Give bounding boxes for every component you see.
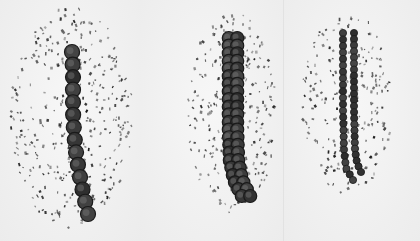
iron-filing xyxy=(104,128,106,130)
iron-filing xyxy=(19,86,20,88)
iron-filing xyxy=(256,110,260,114)
iron-filing xyxy=(52,133,54,135)
iron-filing xyxy=(114,104,116,107)
iron-filing xyxy=(321,33,325,37)
iron-filing xyxy=(198,178,200,180)
iron-filing xyxy=(332,58,334,60)
iron-filing xyxy=(255,156,258,159)
iron-filing xyxy=(200,105,203,109)
iron-filing xyxy=(232,22,234,25)
iron-filing xyxy=(314,104,317,108)
iron-filing xyxy=(205,53,207,55)
iron-filing xyxy=(256,65,260,69)
iron-filing xyxy=(207,113,210,116)
iron-filing xyxy=(363,128,365,130)
iron-filing xyxy=(358,184,360,186)
iron-filing xyxy=(15,142,18,145)
iron-filing xyxy=(94,127,96,130)
iron-filing xyxy=(208,139,210,141)
iron-filing xyxy=(83,143,84,146)
iron-filing xyxy=(307,131,311,135)
iron-filing xyxy=(38,190,41,193)
iron-filing xyxy=(210,185,211,188)
iron-filing xyxy=(311,118,314,120)
iron-filing xyxy=(383,146,385,149)
iron-filing xyxy=(265,108,267,111)
iron-filing xyxy=(116,61,118,63)
iron-filing xyxy=(100,200,103,203)
iron-filing xyxy=(330,165,333,168)
iron-filing xyxy=(47,172,49,174)
bead-highlight xyxy=(69,122,76,129)
iron-filing xyxy=(338,23,340,25)
iron-filing xyxy=(111,57,113,58)
iron-filing xyxy=(104,158,106,160)
iron-filing xyxy=(371,75,374,78)
iron-filing xyxy=(121,127,125,131)
iron-filing xyxy=(218,199,221,202)
iron-filing xyxy=(57,191,58,193)
iron-filing xyxy=(350,17,352,19)
iron-filing xyxy=(306,137,308,139)
iron-filing xyxy=(328,46,330,49)
iron-filing xyxy=(60,143,62,145)
iron-filing xyxy=(242,15,244,17)
iron-filing xyxy=(386,82,389,85)
iron-filing xyxy=(89,129,92,132)
iron-filing xyxy=(53,110,55,112)
iron-filing xyxy=(62,102,63,104)
iron-filing xyxy=(304,80,306,83)
iron-filing xyxy=(64,205,66,208)
iron-filing xyxy=(46,119,49,122)
iron-filing xyxy=(34,205,36,207)
iron-filing xyxy=(380,47,383,50)
iron-filing xyxy=(42,209,45,211)
iron-filing xyxy=(358,19,360,21)
iron-filing xyxy=(88,148,90,152)
iron-filing xyxy=(36,139,39,140)
bead-highlight xyxy=(71,147,78,154)
iron-filing xyxy=(89,58,92,61)
iron-filing xyxy=(80,222,83,224)
iron-filing xyxy=(71,23,73,26)
iron-filing xyxy=(388,132,391,136)
iron-filing xyxy=(108,97,109,99)
iron-filing xyxy=(258,172,260,175)
iron-filing xyxy=(307,65,310,68)
iron-filing xyxy=(46,105,47,106)
iron-filing xyxy=(320,91,323,94)
iron-filing xyxy=(256,35,259,38)
iron-filing xyxy=(326,39,328,41)
iron-filing xyxy=(245,96,246,97)
iron-filing xyxy=(346,80,349,83)
iron-filing xyxy=(55,143,57,145)
iron-filing xyxy=(24,136,26,138)
iron-filing xyxy=(370,118,373,121)
iron-filing xyxy=(61,57,63,60)
filings-and-chain-image xyxy=(284,0,420,241)
iron-filing xyxy=(112,93,114,95)
iron-filing xyxy=(113,118,115,121)
iron-filing xyxy=(348,139,350,142)
iron-filing xyxy=(246,49,248,51)
bead-highlight xyxy=(75,172,82,179)
bead-highlight xyxy=(67,60,74,67)
iron-filing xyxy=(309,85,312,88)
iron-filing xyxy=(119,126,121,128)
iron-filing xyxy=(24,58,27,60)
iron-filing xyxy=(83,61,86,64)
iron-filing xyxy=(267,86,269,89)
iron-filing xyxy=(67,226,70,229)
iron-filing xyxy=(65,174,67,176)
iron-filing xyxy=(256,153,259,156)
iron-filing xyxy=(32,53,36,57)
iron-filing xyxy=(246,64,247,66)
iron-filing xyxy=(34,134,37,137)
iron-filing xyxy=(374,110,376,112)
iron-filing xyxy=(213,102,215,105)
iron-filing xyxy=(55,212,56,214)
iron-filing xyxy=(189,140,192,143)
iron-filing xyxy=(199,173,202,176)
iron-filing xyxy=(51,213,53,215)
iron-filing xyxy=(200,111,203,114)
